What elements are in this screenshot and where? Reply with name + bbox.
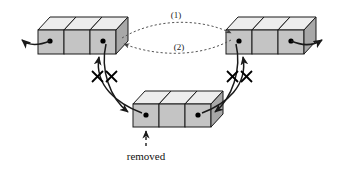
node-dot <box>236 38 241 43</box>
right-node-block <box>226 17 316 54</box>
removed-node-block <box>133 91 223 127</box>
node-dot <box>143 112 148 117</box>
pointer-1-label: (1) <box>171 10 182 20</box>
node-dot <box>195 112 200 117</box>
cross-out-x-icon <box>92 71 103 82</box>
left-node-block <box>38 17 128 54</box>
cross-out-x-icon <box>106 71 117 82</box>
diagram-canvas: (1) (2) removed <box>0 0 350 172</box>
pointer-2-label: (2) <box>174 42 185 52</box>
removed-label: removed <box>127 150 166 162</box>
node-dot <box>100 38 105 43</box>
relink-forward-arrow <box>122 22 231 38</box>
